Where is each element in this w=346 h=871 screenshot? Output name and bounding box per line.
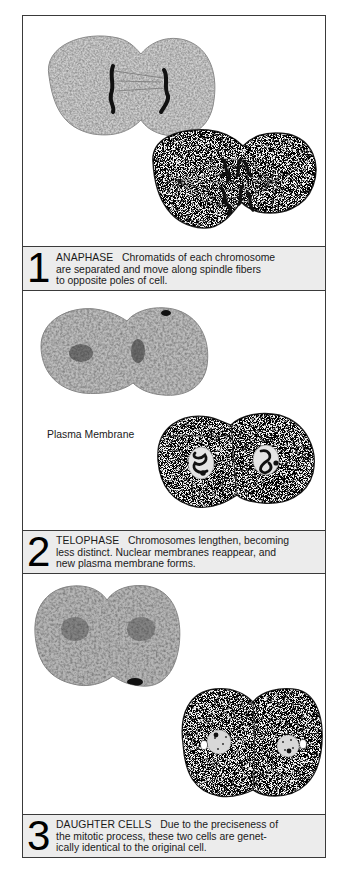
caption-text: TELOPHASE Chromosomes lengthen, becoming… xyxy=(56,535,318,570)
caption-line: to opposite poles of cell. xyxy=(56,275,318,287)
step-number: 2 xyxy=(27,529,50,575)
panel-anaphase-images xyxy=(23,16,325,246)
telophase-illustration xyxy=(23,291,325,530)
caption-daughter-cells: 3 DAUGHTER CELLS Due to the preciseness … xyxy=(23,814,325,857)
caption-telophase: 2 TELOPHASE Chromosomes lengthen, becomi… xyxy=(23,530,325,574)
caption-line: Due to the preciseness of xyxy=(160,819,278,830)
caption-text: DAUGHTER CELLS Due to the preciseness of… xyxy=(56,819,318,854)
caption-line: Chromosomes lengthen, becoming xyxy=(128,535,289,546)
daughter-cells-micrograph xyxy=(23,574,193,694)
caption-line: new plasma membrane forms. xyxy=(56,558,318,570)
caption-line: Chromatids of each chromosome xyxy=(122,252,275,263)
telophase-drawing xyxy=(158,413,314,507)
plasma-membrane-label: Plasma Membrane xyxy=(47,429,134,440)
phase-title: DAUGHTER CELLS xyxy=(56,819,152,830)
panel-telophase-images: Plasma Membrane xyxy=(23,291,325,530)
daughter-cells-illustration xyxy=(23,574,325,814)
telophase-micrograph xyxy=(23,291,223,411)
mitosis-figure: 1 ANAPHASE Chromatids of each chromosome… xyxy=(22,15,326,858)
caption-line: the mitotic process, these two cells are… xyxy=(56,831,318,843)
caption-anaphase: 1 ANAPHASE Chromatids of each chromosome… xyxy=(23,246,325,291)
step-number: 1 xyxy=(27,245,50,291)
anaphase-drawing xyxy=(153,130,316,228)
phase-title: TELOPHASE xyxy=(56,535,119,546)
anaphase-illustration xyxy=(23,16,325,246)
caption-line: less distinct. Nuclear membranes reappea… xyxy=(56,547,318,559)
daughter-cells-drawing xyxy=(182,689,322,797)
step-number: 3 xyxy=(27,813,50,859)
phase-title: ANAPHASE xyxy=(56,252,113,263)
caption-text: ANAPHASE Chromatids of each chromosome a… xyxy=(56,252,318,287)
caption-line: ically identical to the original cell. xyxy=(56,842,318,854)
caption-line: are separated and move along spindle fib… xyxy=(56,264,318,276)
panel-daughter-cells-images xyxy=(23,574,325,814)
